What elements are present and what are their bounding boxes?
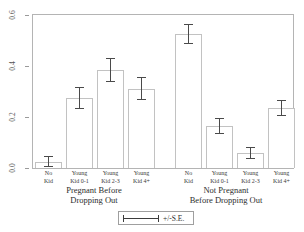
error-bar-stem xyxy=(79,87,80,108)
group-label-not-pregnant: Not Pregnant Before Dropping Out xyxy=(160,186,292,205)
category-label: Young Kid 2-3 xyxy=(93,170,128,185)
error-bar-cap-top xyxy=(106,58,115,59)
error-bar-cap-top xyxy=(75,87,84,88)
error-bar-cap-bottom xyxy=(277,115,286,116)
error-bar-cap-top xyxy=(184,24,193,25)
category-label: Young Kid 0-1 xyxy=(62,170,97,185)
error-bar-cap-left-icon xyxy=(123,215,124,222)
y-axis-tick-label: 0.4 xyxy=(4,55,22,77)
bar xyxy=(268,108,295,168)
error-bar-cap-bottom xyxy=(215,133,224,134)
legend-box: +/-S.E. xyxy=(118,211,194,225)
error-bar-cap-bottom xyxy=(44,166,53,167)
error-bar xyxy=(246,147,255,159)
error-bar-stem xyxy=(281,100,282,115)
error-bar-cap-bottom xyxy=(75,108,84,109)
error-bar xyxy=(75,87,84,108)
plot-area xyxy=(33,15,293,168)
error-bar-cap-top xyxy=(44,156,53,157)
error-bar-cap-bottom xyxy=(184,43,193,44)
bar xyxy=(175,34,202,168)
error-bar-cap-bottom xyxy=(246,158,255,159)
y-axis-tick-mark xyxy=(25,15,29,16)
error-bar-cap-top xyxy=(246,147,255,148)
y-axis-tick-label: 0.2 xyxy=(4,106,22,128)
bar xyxy=(97,70,124,168)
error-bar-cap-bottom xyxy=(137,99,146,100)
error-bar-cap-right-icon xyxy=(158,215,159,222)
y-axis: 0.00.20.40.6 xyxy=(0,0,33,180)
y-axis-tick-mark xyxy=(25,117,29,118)
category-label: Young Kid 4+ xyxy=(124,170,159,185)
error-bar-stem xyxy=(219,118,220,134)
error-bar-stem xyxy=(188,24,189,44)
category-label: No Kid xyxy=(31,170,66,185)
error-bar xyxy=(137,77,146,100)
legend-label: +/-S.E. xyxy=(163,213,184,224)
error-bar-icon xyxy=(123,218,159,219)
category-label: No Kid xyxy=(171,170,206,185)
bar-chart-figure: 0.00.20.40.6 No KidYoung Kid 0-1Young Ki… xyxy=(0,0,304,232)
y-axis-tick-label: 0.6 xyxy=(4,4,22,26)
y-axis-tick-label: 0.0 xyxy=(4,157,22,179)
bar xyxy=(128,89,155,168)
error-bar-cap-top xyxy=(277,100,286,101)
y-axis-tick-mark xyxy=(25,168,29,169)
category-label: Young Kid 4+ xyxy=(264,170,299,185)
error-bar xyxy=(44,156,53,167)
error-bar xyxy=(277,100,286,115)
error-bar xyxy=(215,118,224,134)
error-bar xyxy=(106,58,115,82)
error-bar xyxy=(184,24,193,44)
category-label: Young Kid 0-1 xyxy=(202,170,237,185)
error-bar-stem xyxy=(110,58,111,82)
y-axis-tick-mark xyxy=(25,66,29,67)
error-bar-cap-top xyxy=(137,77,146,78)
error-bar-cap-top xyxy=(215,118,224,119)
group-label-pregnant: Pregnant Before Dropping Out xyxy=(34,186,154,205)
error-bar-cap-bottom xyxy=(106,81,115,82)
error-bar-stem xyxy=(141,77,142,100)
category-label: Young Kid 2-3 xyxy=(233,170,268,185)
